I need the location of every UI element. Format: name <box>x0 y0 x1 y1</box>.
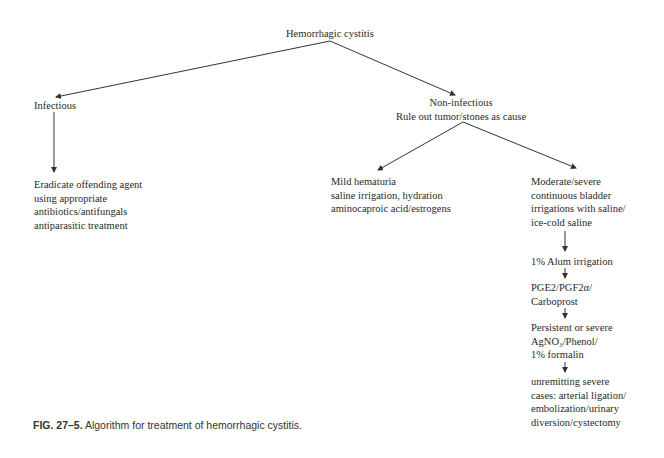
node-alum-irrigation: 1% Alum irrigation <box>531 255 613 269</box>
node-infectious: Infectious <box>34 99 76 113</box>
node-persistent-severe: Persistent or severe AgNO₃/Phenol/ 1% fo… <box>531 321 613 362</box>
edge-root-infectious <box>56 41 330 97</box>
node-moderate-severe: Moderate/severe continuous bladder irrig… <box>531 175 626 229</box>
edge-root-noninfectious <box>330 41 455 95</box>
figure-caption-text: Algorithm for treatment of hemorrhagic c… <box>83 419 302 431</box>
edge-noninf-mild <box>378 122 463 170</box>
node-prostaglandins: PGE2/PGF2α/ Carboprost <box>531 281 592 308</box>
node-infectious-action: Eradicate offending agent using appropri… <box>34 178 142 232</box>
node-mild-hematuria: Mild hematuria saline irrigation, hydrat… <box>331 175 451 216</box>
node-non-infectious: Non-infectious Rule out tumor/stones as … <box>396 96 526 123</box>
node-unremitting-severe: unremitting severe cases: arterial ligat… <box>531 375 626 429</box>
edge-noninf-moderate <box>463 122 576 168</box>
figure-label: FIG. 27–5. <box>33 419 83 431</box>
figure-caption: FIG. 27–5. Algorithm for treatment of he… <box>33 419 302 431</box>
node-root: Hemorrhagic cystitis <box>286 27 374 41</box>
